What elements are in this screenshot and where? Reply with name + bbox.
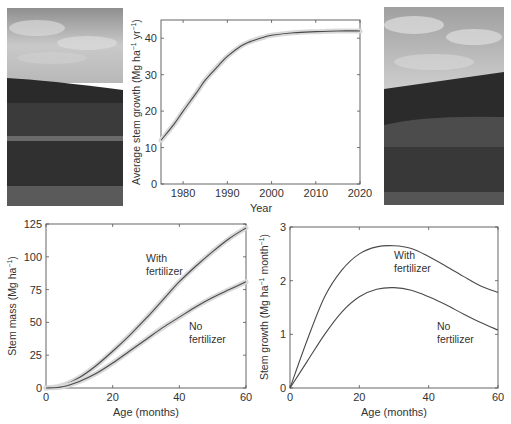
x-tick-label: 0 bbox=[287, 391, 293, 403]
y-tick-label: 40 bbox=[145, 32, 157, 44]
y-tick-label: 3 bbox=[280, 221, 286, 233]
top-x-label: Year bbox=[250, 202, 273, 214]
x-tick-label: 60 bbox=[492, 391, 504, 403]
charts-canvas: 19801990200020102020010203040 0204060025… bbox=[0, 0, 511, 424]
right-annotation-with-fertilizer: Withfertilizer bbox=[394, 249, 431, 274]
stem-growth-chart: 02040600123 bbox=[280, 221, 504, 403]
x-tick-label: 2000 bbox=[259, 187, 283, 199]
y-tick-label: 0 bbox=[280, 382, 286, 394]
left-y-label: Stem mass (Mg ha−1) bbox=[6, 256, 18, 356]
x-tick-label: 1990 bbox=[215, 187, 239, 199]
x-tick-label: 2020 bbox=[348, 187, 372, 199]
y-tick-label: 50 bbox=[30, 316, 42, 328]
x-tick-label: 0 bbox=[43, 391, 49, 403]
x-tick-label: 40 bbox=[423, 391, 435, 403]
y-tick-label: 25 bbox=[30, 349, 42, 361]
x-tick-label: 40 bbox=[173, 391, 185, 403]
stem-mass-chart: 02040600255075100125 bbox=[24, 218, 252, 403]
left-annotation-no-fertilizer: Nofertilizer bbox=[189, 320, 226, 345]
y-tick-label: 75 bbox=[30, 284, 42, 296]
x-tick-label: 1980 bbox=[171, 187, 195, 199]
series-line bbox=[161, 31, 360, 140]
y-tick-label: 0 bbox=[151, 178, 157, 190]
left-x-label: Age (months) bbox=[113, 406, 179, 418]
y-tick-label: 100 bbox=[24, 251, 42, 263]
y-tick-label: 30 bbox=[145, 69, 157, 81]
x-tick-label: 60 bbox=[240, 391, 252, 403]
x-tick-label: 20 bbox=[353, 391, 365, 403]
x-tick-label: 20 bbox=[107, 391, 119, 403]
y-tick-label: 125 bbox=[24, 218, 42, 230]
y-tick-label: 20 bbox=[145, 105, 157, 117]
right-y-label: Stem growth (Mg ha−1 month−1) bbox=[258, 234, 270, 380]
top-y-label: Average stem growth (Mg ha−1 yr−1) bbox=[130, 19, 142, 185]
right-annotation-no-fertilizer: Nofertilizer bbox=[437, 320, 474, 345]
y-tick-label: 2 bbox=[280, 275, 286, 287]
y-tick-label: 1 bbox=[280, 328, 286, 340]
confidence-band bbox=[161, 31, 360, 140]
y-tick-label: 10 bbox=[145, 142, 157, 154]
top-chart: 19801990200020102020010203040 bbox=[145, 20, 372, 199]
right-x-label: Age (months) bbox=[361, 406, 427, 418]
x-tick-label: 2010 bbox=[304, 187, 328, 199]
y-tick-label: 0 bbox=[36, 382, 42, 394]
left-annotation-with-fertilizer: Withfertilizer bbox=[146, 252, 183, 277]
